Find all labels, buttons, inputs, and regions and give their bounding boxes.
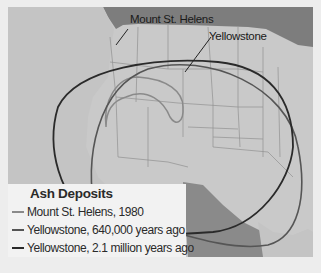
- legend-item-yellowstone-2-1m: Yellowstone, 2.1 million years ago: [12, 240, 194, 256]
- legend-swatch: [12, 247, 24, 249]
- mount-st-helens-label: Mount St. Helens: [130, 13, 213, 25]
- legend-item-label: Yellowstone, 640,000 years ago: [27, 223, 185, 237]
- legend-item-mount-st-helens: Mount St. Helens, 1980: [12, 204, 144, 220]
- yellowstone-label: Yellowstone: [209, 30, 267, 42]
- legend-swatch: [12, 211, 24, 213]
- legend-title: Ash Deposits: [30, 186, 113, 201]
- legend-item-label: Yellowstone, 2.1 million years ago: [27, 241, 194, 255]
- mount-st-helens-ash-line: [106, 77, 184, 127]
- legend-swatch: [12, 229, 24, 231]
- legend-item-yellowstone-640k: Yellowstone, 640,000 years ago: [12, 222, 185, 238]
- map-legend: Ash Deposits Mount St. Helens, 1980 Yell…: [8, 184, 186, 257]
- mount-st-helens-leader: [116, 29, 128, 45]
- legend-item-label: Mount St. Helens, 1980: [27, 205, 144, 219]
